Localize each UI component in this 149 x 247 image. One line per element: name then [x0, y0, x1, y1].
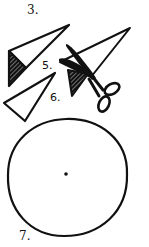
step-label-5: 5.: [42, 60, 53, 72]
step-label-3: 3.: [27, 4, 38, 16]
center-dot: [64, 172, 68, 176]
circle-step7: [8, 119, 127, 236]
folded-triangle-step3: [9, 25, 69, 86]
diagram-canvas: [0, 0, 149, 247]
step-label-6: 6.: [50, 92, 61, 104]
step-label-7: 7.: [19, 230, 30, 242]
